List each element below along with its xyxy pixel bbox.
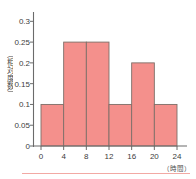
bars-group <box>41 42 177 146</box>
bar-8-12 <box>86 42 109 146</box>
footer-divider <box>22 173 190 174</box>
bar-12-16 <box>109 104 132 146</box>
plot-area <box>0 0 196 179</box>
bar-4-8 <box>64 42 87 146</box>
bar-16-20 <box>132 63 155 146</box>
bar-0-4 <box>41 104 64 146</box>
bar-20-24 <box>154 104 177 146</box>
histogram-chart: （相対度数） 00.050.10.150.20.250.3 0481216202… <box>0 0 196 179</box>
